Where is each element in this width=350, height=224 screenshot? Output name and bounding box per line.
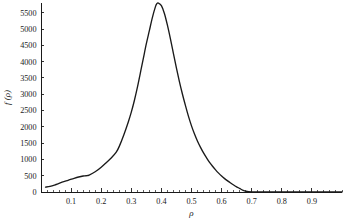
x-axis-tick-labels: 0.10.20.30.40.50.60.70.80.9 [66,197,317,206]
y-tick-label: 0 [32,188,36,197]
y-tick-label: 2000 [20,123,36,132]
y-axis-tick-labels: 0500100015002000250030003500400045005000… [20,9,36,197]
x-tick-label: 0.4 [156,197,166,206]
x-tick-label: 0.2 [96,197,106,206]
data-series-curve [46,3,342,192]
figure-caption [0,214,350,224]
x-tick-label: 0.1 [66,197,76,206]
x-tick-label: 0.5 [186,197,196,206]
x-tick-label: 0.9 [307,197,317,206]
y-tick-label: 4500 [20,41,36,50]
y-tick-label: 5500 [20,9,36,18]
y-tick-label: 3000 [20,90,36,99]
y-tick-label: 3500 [20,74,36,83]
x-tick-label: 0.3 [126,197,136,206]
chart-plot: 0500100015002000250030003500400045005000… [0,0,350,224]
y-tick-label: 1000 [20,155,36,164]
x-tick-label: 0.7 [247,197,257,206]
y-tick-label: 2500 [20,106,36,115]
y-tick-label: 5000 [20,25,36,34]
x-tick-label: 0.6 [216,197,226,206]
x-tick-label: 0.8 [277,197,287,206]
y-tick-label: 4000 [20,58,36,67]
y-tick-label: 1500 [20,139,36,148]
figure-container: 0500100015002000250030003500400045005000… [0,0,350,224]
y-axis-title: f (ρ) [2,90,12,105]
y-tick-label: 500 [24,172,36,181]
